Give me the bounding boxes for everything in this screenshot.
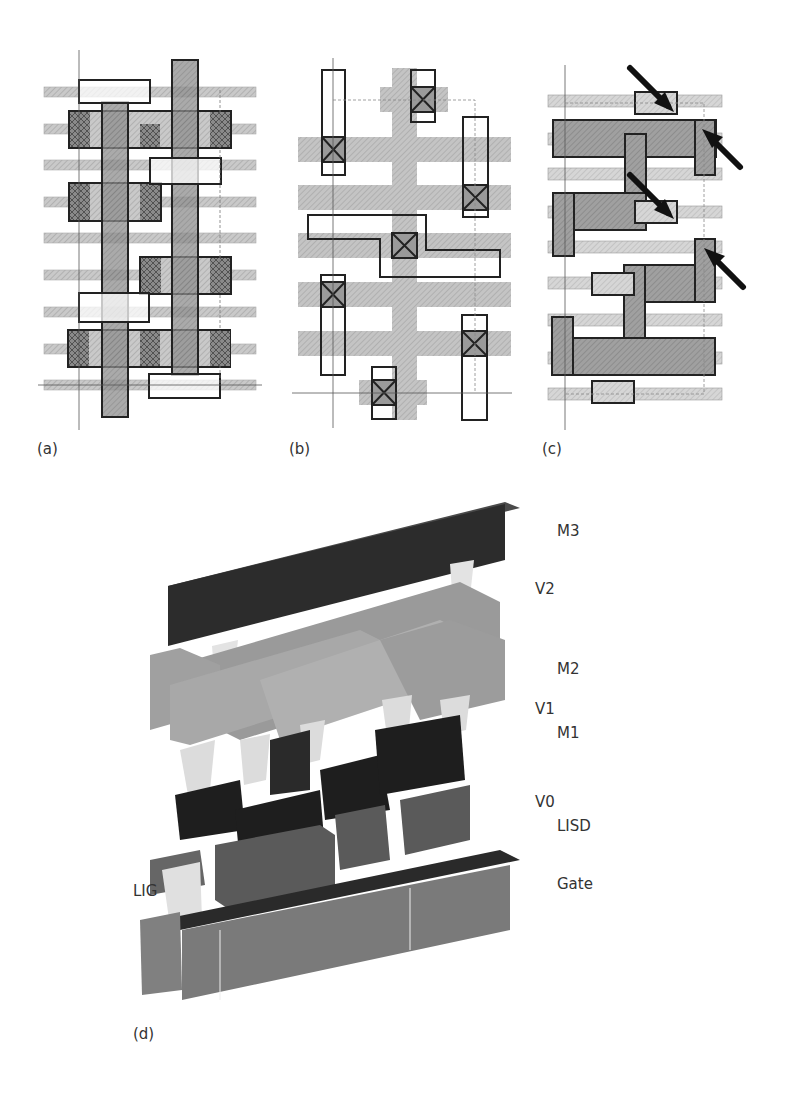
layer-label-lig: LIG — [133, 882, 157, 900]
panel-b-drawing — [280, 50, 520, 430]
via-icon — [463, 185, 488, 210]
panel-a-label: (a) — [37, 440, 58, 458]
panel-d-drawing — [120, 490, 540, 1010]
panel-c-layout — [530, 50, 780, 430]
panel-a-drawing — [30, 50, 270, 430]
via-icon — [392, 233, 417, 258]
panel-d-3d-stack — [120, 490, 540, 1010]
layer-label-gate: Gate — [557, 875, 593, 893]
panel-b-layout — [280, 50, 520, 430]
layer-label-v0: V0 — [535, 793, 555, 811]
panel-a-layout — [30, 50, 270, 430]
layer-label-lisd: LISD — [557, 817, 591, 835]
panel-b-label: (b) — [289, 440, 310, 458]
via-icon — [411, 87, 435, 112]
layer-label-m1: M1 — [557, 724, 580, 742]
layer-label-v2: V2 — [535, 580, 555, 598]
via-icon — [372, 380, 396, 405]
layer-label-v1: V1 — [535, 700, 555, 718]
panel-c-drawing — [530, 50, 780, 430]
panel-d-label: (d) — [133, 1025, 154, 1043]
layer-label-m3: M3 — [557, 522, 580, 540]
panel-c-label: (c) — [542, 440, 562, 458]
via-icon — [322, 137, 345, 162]
layer-label-m2: M2 — [557, 660, 580, 678]
via-icon — [462, 331, 487, 356]
